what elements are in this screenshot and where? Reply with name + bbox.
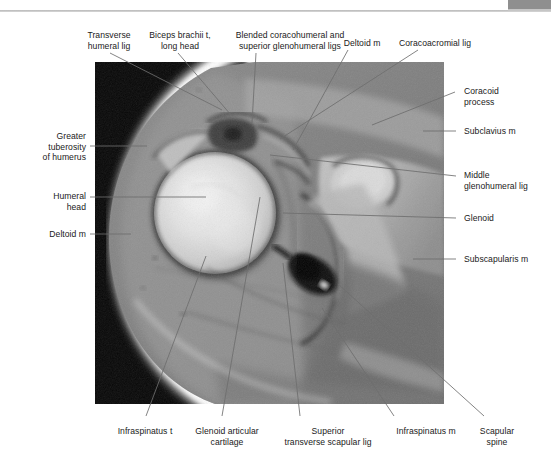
label-deltoid-m-left: Deltoid m xyxy=(14,229,86,240)
label-coracoacromial-lig: Coracoacromial lig xyxy=(390,38,480,49)
label-humeral-head: Humeral head xyxy=(14,191,86,212)
mri-image xyxy=(95,62,444,404)
label-superior-transverse-scapular-lig: Superior transverse scapular lig xyxy=(274,426,382,447)
label-coracoid-process: Coracoid process xyxy=(464,86,499,107)
label-subscapularis-m: Subscapularis m xyxy=(464,254,528,265)
figure-page: Transverse humeral lig Biceps brachii t,… xyxy=(0,0,551,470)
label-glenoid: Glenoid xyxy=(464,213,494,224)
label-infraspinatus-t: Infraspinatus t xyxy=(106,426,184,437)
label-subclavius-m: Subclavius m xyxy=(464,126,516,137)
label-scapular-spine: Scapular spine xyxy=(468,426,526,447)
label-middle-glenohumeral-lig: Middle glenohumeral lig xyxy=(464,170,528,191)
page-corner-tab xyxy=(508,0,551,9)
page-corner-tab-shade xyxy=(508,9,551,11)
label-infraspinatus-m: Infraspinatus m xyxy=(386,426,466,437)
label-greater-tuberosity: Greater tuberosity of humerus xyxy=(14,131,86,163)
label-deltoid-m-top: Deltoid m xyxy=(337,38,387,49)
header-rule xyxy=(0,10,551,12)
label-glenoid-articular-cartilage: Glenoid articular cartilage xyxy=(186,426,268,447)
label-biceps-brachii-t: Biceps brachii t, long head xyxy=(145,30,215,51)
label-transverse-humeral-lig: Transverse humeral lig xyxy=(78,30,140,51)
